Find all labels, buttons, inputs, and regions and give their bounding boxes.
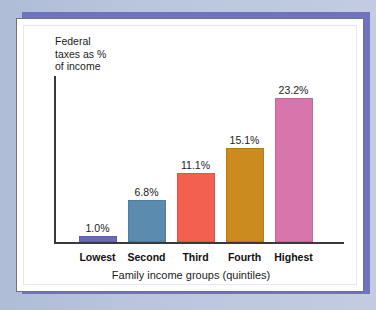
bar-value-label: 15.1% [230, 134, 260, 146]
bar-value-label: 23.2% [279, 84, 309, 96]
x-tick-label-fourth: Fourth [220, 251, 269, 263]
bar-group-highest: 23.2% [269, 76, 318, 242]
bar-series: 1.0%6.8%11.1%15.1%23.2% [73, 76, 335, 242]
bar-group-second: 6.8% [122, 76, 171, 242]
bar-rect [226, 148, 264, 242]
bar-rect [177, 173, 215, 242]
y-axis-line [54, 76, 56, 244]
x-axis-tick-labels: LowestSecondThirdFourthHighest [73, 251, 335, 263]
bar-rect [275, 98, 313, 242]
x-axis-line [54, 242, 344, 244]
bar-group-lowest: 1.0% [73, 76, 122, 242]
bar-value-label: 6.8% [135, 186, 159, 198]
chart-card: Federal taxes as % of income 1.0%6.8%11.… [16, 18, 364, 292]
bar-value-label: 1.0% [86, 222, 110, 234]
y-axis-caption: Federal taxes as % of income [55, 35, 106, 73]
x-tick-label-lowest: Lowest [73, 251, 122, 263]
x-tick-label-highest: Highest [269, 251, 318, 263]
bar-rect [128, 200, 166, 242]
plot-area: 1.0%6.8%11.1%15.1%23.2% [54, 76, 346, 248]
x-axis-title: Family income groups (quintiles) [33, 269, 349, 281]
bar-group-fourth: 15.1% [220, 76, 269, 242]
x-tick-label-second: Second [122, 251, 171, 263]
bar-group-third: 11.1% [171, 76, 220, 242]
bar-rect [79, 236, 117, 242]
x-tick-label-third: Third [171, 251, 220, 263]
bar-value-label: 11.1% [181, 159, 210, 171]
